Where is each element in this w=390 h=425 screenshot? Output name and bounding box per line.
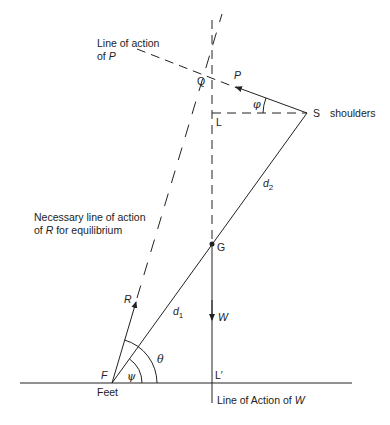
annotation-line-of-action-w: Line of Action of W bbox=[217, 394, 306, 406]
annotation-line-of-action-r-line2: of R for equilibrium bbox=[34, 224, 122, 236]
label-force-w: W bbox=[218, 311, 229, 323]
annotation-line-of-action-p-line2: of P bbox=[97, 50, 116, 62]
label-shoulders: shoulders bbox=[330, 107, 376, 119]
label-force-p: P bbox=[234, 69, 241, 81]
label-g-point: G bbox=[217, 241, 225, 253]
label-l-prime: L′ bbox=[215, 369, 223, 381]
line-of-action-p bbox=[137, 49, 237, 88]
label-l: L bbox=[216, 116, 222, 128]
label-feet: Feet bbox=[97, 386, 118, 398]
annotation-line-of-action-p-line1: Line of action bbox=[97, 37, 160, 49]
angle-phi-arc bbox=[263, 98, 266, 113]
force-p-arrow bbox=[236, 87, 307, 113]
label-f: F bbox=[101, 369, 108, 381]
label-force-r: R bbox=[124, 293, 132, 305]
body-line bbox=[112, 113, 307, 383]
label-d2: d2 bbox=[263, 177, 274, 192]
label-s: S bbox=[313, 107, 320, 119]
label-q: Q bbox=[197, 75, 205, 87]
label-angle-psi: ψ bbox=[127, 370, 136, 383]
force-diagram: Q L S shoulders G F Feet L′ P R W d2 d1 … bbox=[0, 0, 390, 425]
annotation-line-of-action-r-line1: Necessary line of action bbox=[34, 211, 146, 223]
label-angle-theta: θ bbox=[157, 353, 164, 366]
label-angle-phi: φ bbox=[253, 98, 261, 111]
line-of-action-r bbox=[137, 14, 222, 298]
label-d1: d1 bbox=[173, 305, 184, 320]
center-of-gravity-point bbox=[210, 242, 215, 247]
